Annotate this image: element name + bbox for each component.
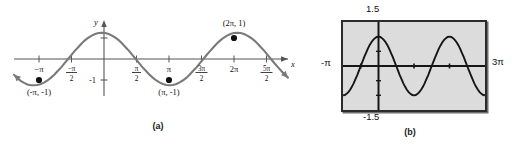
window-ymax-label: 1.5 — [366, 3, 379, 14]
svg-text:−π: −π — [68, 65, 76, 73]
point-label-neg-pi: (-π, -1) — [27, 87, 51, 97]
svg-text:2: 2 — [200, 75, 204, 83]
x-tick-label-neg-pi-over-2: −π 2 — [66, 65, 77, 83]
svg-text:2: 2 — [135, 75, 139, 83]
panel-b-svg — [343, 22, 485, 110]
x-tick-label-neg-pi: −π — [34, 64, 44, 74]
y-axis — [101, 20, 106, 96]
point-marker-2pi — [231, 35, 237, 41]
svg-text:5π: 5π — [263, 65, 271, 73]
point-label-2pi: (2π, 1) — [223, 18, 246, 28]
point-label-pi: (π, -1) — [158, 87, 179, 97]
panel-b-graph: 1.5 -1.5 -π 3π — [320, 0, 518, 146]
svg-text:3π: 3π — [198, 65, 206, 73]
x-tick-label-2pi: 2π — [230, 64, 239, 74]
y-tick-label-neg1: -1 — [89, 75, 96, 85]
window-xmin-label: -π — [321, 57, 331, 68]
window-xmax-label: 3π — [492, 56, 504, 67]
y-axis-label: y — [93, 17, 98, 27]
x-axis-label: x — [290, 59, 295, 69]
point-marker-neg-pi — [36, 77, 42, 83]
panel-a-graph: y x -1 −π −π 2 π 2 π 3π — [0, 0, 320, 146]
x-tick-label-pi-over-2: π 2 — [132, 65, 141, 83]
window-ymin-label: -1.5 — [363, 111, 379, 122]
x-tick-label-3pi-over-2: 3π 2 — [196, 65, 208, 83]
panel-a-caption: (a) — [138, 121, 178, 131]
svg-text:2: 2 — [70, 75, 74, 83]
svg-text:2: 2 — [265, 75, 269, 83]
x-tick-label-5pi-over-2: 5π 2 — [261, 65, 273, 83]
panel-a-svg: y x -1 −π −π 2 π 2 π 3π — [0, 0, 320, 118]
x-tick-label-pi: π — [167, 64, 172, 74]
panel-b-caption: (b) — [390, 127, 430, 137]
calculator-screen — [341, 20, 487, 112]
point-marker-pi — [166, 77, 172, 83]
svg-text:π: π — [135, 65, 139, 73]
x-axis — [14, 56, 288, 61]
figure-root: y x -1 −π −π 2 π 2 π 3π — [0, 0, 518, 146]
